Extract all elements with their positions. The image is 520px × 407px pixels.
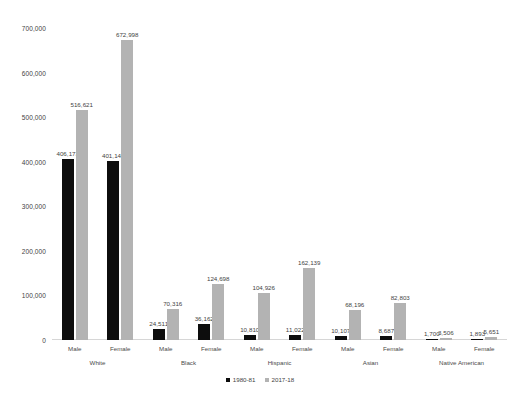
bars: 10,810104,926 <box>234 28 280 340</box>
bar[interactable]: 5,651 <box>485 337 497 340</box>
bar-pair: 1,7003,506Male <box>416 28 462 340</box>
legend-label: 2017-18 <box>272 376 295 383</box>
bar[interactable]: 36,162 <box>198 324 210 340</box>
legend-item[interactable]: 2017-18 <box>265 376 295 383</box>
plot-area: 700,000600,000500,000400,000300,000200,0… <box>52 28 507 340</box>
bar[interactable]: 82,803 <box>394 303 406 340</box>
bar-group: 24,51170,316Male36,162124,698FemaleBlack <box>143 28 234 340</box>
bar-group: 406,173516,621Male401,146672,998FemaleWh… <box>52 28 143 340</box>
y-axis-tick-label: 700,000 <box>22 25 46 32</box>
bar[interactable]: 516,621 <box>76 110 88 340</box>
category-label: Male <box>143 345 189 352</box>
legend-label: 1980-81 <box>233 376 256 383</box>
bars: 24,51170,316 <box>143 28 189 340</box>
legend-swatch-icon <box>226 378 230 382</box>
bar[interactable]: 10,107 <box>335 336 347 341</box>
bar-value-label: 24,511 <box>149 320 168 327</box>
group-label: Asian <box>325 359 416 366</box>
y-axis-tick-label: 600,000 <box>22 69 46 76</box>
bar-group-pairs: 24,51170,316Male36,162124,698Female <box>143 28 234 340</box>
bar-group-pairs: 10,810104,926Male11,022162,139Female <box>234 28 325 340</box>
bars: 401,146672,998 <box>98 28 144 340</box>
bar-group-pairs: 1,7003,506Male1,8935,651Female <box>416 28 507 340</box>
category-label: Female <box>189 345 235 352</box>
category-label: Male <box>416 345 462 352</box>
bar[interactable]: 162,139 <box>303 268 315 340</box>
bar[interactable]: 10,810 <box>244 335 256 340</box>
bar[interactable]: 104,926 <box>258 293 270 340</box>
y-axis-tick-label: 100,000 <box>22 292 46 299</box>
bars: 1,8935,651 <box>462 28 508 340</box>
category-label: Female <box>280 345 326 352</box>
bar-pair: 401,146672,998Female <box>98 28 144 340</box>
group-label: Hispanic <box>234 359 325 366</box>
bar-group-pairs: 10,10768,196Male8,68782,803Female <box>325 28 416 340</box>
bars: 8,68782,803 <box>371 28 417 340</box>
group-label: Black <box>143 359 234 366</box>
bar-value-label: 68,196 <box>345 301 364 308</box>
y-axis-tick-label: 300,000 <box>22 203 46 210</box>
bar[interactable]: 1,700 <box>426 339 438 340</box>
bar-value-label: 82,803 <box>391 294 410 301</box>
bar-value-label: 11,022 <box>286 326 305 333</box>
bar-value-label: 10,810 <box>240 326 259 333</box>
bar-pair: 11,022162,139Female <box>280 28 326 340</box>
bar-pair: 1,8935,651Female <box>462 28 508 340</box>
category-label: Female <box>462 345 508 352</box>
bars: 11,022162,139 <box>280 28 326 340</box>
bar-value-label: 70,316 <box>163 300 182 307</box>
bar[interactable]: 672,998 <box>121 40 133 340</box>
category-label: Female <box>371 345 417 352</box>
y-axis-tick-label: 200,000 <box>22 247 46 254</box>
bar[interactable]: 124,698 <box>212 284 224 340</box>
bar[interactable]: 68,196 <box>349 310 361 340</box>
y-axis-tick-label: 0 <box>42 337 46 344</box>
legend-item[interactable]: 1980-81 <box>226 376 256 383</box>
category-label: Male <box>52 345 98 352</box>
bar-chart: 700,000600,000500,000400,000300,000200,0… <box>0 0 520 407</box>
category-label: Female <box>98 345 144 352</box>
bar[interactable]: 8,687 <box>380 336 392 340</box>
bar-group: 10,10768,196Male8,68782,803FemaleAsian <box>325 28 416 340</box>
group-label: Native American <box>416 359 507 366</box>
bar-value-label: 516,621 <box>70 101 93 108</box>
bar-pair: 10,10768,196Male <box>325 28 371 340</box>
bar-value-label: 672,998 <box>116 31 139 38</box>
bar[interactable]: 406,173 <box>62 159 74 340</box>
category-label: Male <box>234 345 280 352</box>
y-axis-tick-label: 500,000 <box>22 114 46 121</box>
bar[interactable]: 24,511 <box>153 329 165 340</box>
bar-groups: 406,173516,621Male401,146672,998FemaleWh… <box>52 28 507 340</box>
chart-legend: 1980-812017-18 <box>0 376 520 383</box>
bar-group-pairs: 406,173516,621Male401,146672,998Female <box>52 28 143 340</box>
bar[interactable]: 401,146 <box>107 161 119 340</box>
bars: 36,162124,698 <box>189 28 235 340</box>
bars: 406,173516,621 <box>52 28 98 340</box>
bars: 10,10768,196 <box>325 28 371 340</box>
bar-value-label: 10,107 <box>331 327 350 334</box>
y-axis-tick-label: 400,000 <box>22 158 46 165</box>
category-label: Male <box>325 345 371 352</box>
bar-value-label: 5,651 <box>483 328 499 335</box>
bar[interactable]: 3,506 <box>440 338 452 340</box>
bar-group: 10,810104,926Male11,022162,139FemaleHisp… <box>234 28 325 340</box>
legend-swatch-icon <box>265 378 269 382</box>
bar-pair: 8,68782,803Female <box>371 28 417 340</box>
bar-group: 1,7003,506Male1,8935,651FemaleNative Ame… <box>416 28 507 340</box>
bar-value-label: 104,926 <box>252 284 275 291</box>
bar-value-label: 124,698 <box>207 275 230 282</box>
bars: 1,7003,506 <box>416 28 462 340</box>
bar-value-label: 3,506 <box>438 329 454 336</box>
bar-pair: 406,173516,621Male <box>52 28 98 340</box>
bar-pair: 24,51170,316Male <box>143 28 189 340</box>
bar-value-label: 36,162 <box>195 315 214 322</box>
bar-pair: 10,810104,926Male <box>234 28 280 340</box>
bar-value-label: 8,687 <box>378 327 394 334</box>
bar[interactable]: 70,316 <box>167 309 179 340</box>
bar-pair: 36,162124,698Female <box>189 28 235 340</box>
group-label: White <box>52 359 143 366</box>
bar[interactable]: 11,022 <box>289 335 301 340</box>
bar[interactable]: 1,893 <box>471 339 483 340</box>
bar-value-label: 162,139 <box>298 259 321 266</box>
